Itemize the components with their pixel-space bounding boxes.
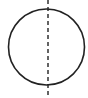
circle-shape bbox=[9, 9, 85, 85]
symmetry-diagram bbox=[0, 0, 88, 98]
